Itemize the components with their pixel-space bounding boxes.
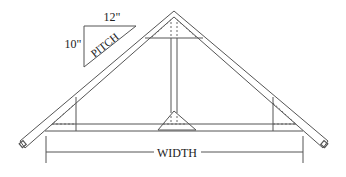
rise-label: 10" bbox=[65, 37, 82, 51]
width-label: WIDTH bbox=[157, 146, 197, 160]
right-heel-dashes bbox=[273, 103, 298, 126]
pitch-label: PITCH bbox=[88, 30, 120, 59]
top-gusset-dashes bbox=[152, 17, 196, 38]
right-rafter bbox=[174, 11, 328, 148]
run-label: 12" bbox=[104, 10, 121, 24]
left-rafter bbox=[20, 11, 174, 148]
truss-diagram: WIDTH 12" 10" PITCH bbox=[0, 0, 346, 177]
left-heel-dashes bbox=[50, 103, 76, 126]
king-post bbox=[171, 38, 177, 113]
